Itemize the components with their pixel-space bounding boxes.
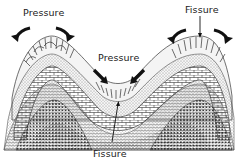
arrow-head-icon	[11, 34, 19, 42]
label-fissure-top-right: Fissure	[185, 4, 219, 15]
label-fissure-bottom: Fissure	[93, 148, 127, 159]
arrow-head-icon	[224, 36, 233, 44]
arrow-head-icon	[167, 36, 175, 44]
label-pressure-center: Pressure	[98, 52, 139, 63]
arrow-head-icon	[66, 34, 75, 42]
fold-diagram	[0, 0, 236, 166]
pressure-arrows-center	[94, 70, 144, 84]
label-pressure-top-left: Pressure	[23, 7, 64, 18]
